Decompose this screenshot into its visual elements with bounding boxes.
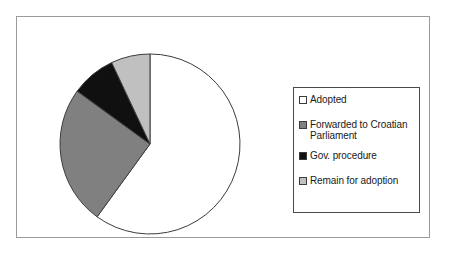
legend-label-forwarded: Forwarded to Croatian Parliament	[310, 119, 407, 141]
screenshot-root: Adopted Forwarded to Croatian Parliament…	[0, 0, 455, 261]
pie-chart-svg	[53, 47, 253, 247]
legend-swatch-gov-procedure	[299, 152, 307, 160]
pie-chart	[53, 47, 253, 247]
legend-label-gov-procedure: Gov. procedure	[310, 150, 377, 161]
legend-label-adopted: Adopted	[310, 94, 347, 105]
chart-frame: Adopted Forwarded to Croatian Parliament…	[16, 16, 430, 238]
legend-item-gov-procedure[interactable]: Gov. procedure	[299, 150, 415, 161]
legend-swatch-forwarded	[299, 121, 307, 129]
legend-swatch-remain	[299, 177, 307, 185]
pie-slices	[60, 54, 240, 234]
legend-item-remain[interactable]: Remain for adoption	[299, 175, 415, 186]
legend-item-adopted[interactable]: Adopted	[299, 94, 415, 105]
legend-label-remain: Remain for adoption	[310, 175, 398, 186]
legend-swatch-adopted	[299, 96, 307, 104]
legend-item-forwarded[interactable]: Forwarded to Croatian Parliament	[299, 119, 415, 141]
chart-legend: Adopted Forwarded to Croatian Parliament…	[293, 87, 420, 213]
